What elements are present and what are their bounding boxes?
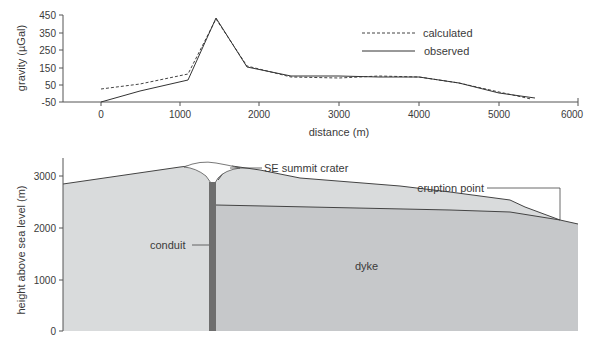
legend-label-calculated: calculated xyxy=(423,27,473,39)
x-tick-label: 0 xyxy=(98,109,104,120)
y-axis-label: gravity (µGal) xyxy=(15,25,27,91)
y-tick-label: 350 xyxy=(39,28,56,39)
y-ticks xyxy=(59,15,63,102)
x-tick-label: 5000 xyxy=(488,109,511,120)
height-tick-label: 2000 xyxy=(34,223,57,234)
label-dyke: dyke xyxy=(355,260,378,272)
legend: calculated observed xyxy=(362,27,473,57)
x-tick-label: 2000 xyxy=(248,109,271,120)
conduit xyxy=(209,182,216,331)
dyke-body xyxy=(216,205,578,331)
label-conduit: conduit xyxy=(150,239,185,251)
height-tick-labels: 3000 2000 1000 0 xyxy=(34,171,57,337)
cross-section: 3000 2000 1000 0 height above sea level … xyxy=(15,158,578,337)
y-tick-label: 150 xyxy=(39,63,56,74)
y-tick-label: 50 xyxy=(45,80,57,91)
label-eruption-point: eruption point xyxy=(417,182,484,194)
y-tick-labels: 450 350 250 150 50 -50 xyxy=(39,10,56,108)
x-axis-label: distance (m) xyxy=(309,126,370,138)
height-axis-label: height above sea level (m) xyxy=(15,185,27,314)
y-tick-label: 250 xyxy=(39,45,56,56)
height-ticks xyxy=(59,176,63,331)
y-tick-label: 450 xyxy=(39,10,56,21)
legend-label-observed: observed xyxy=(424,45,469,57)
y-tick-label: -50 xyxy=(42,97,57,108)
label-se-summit-crater: SE summit crater xyxy=(264,162,349,174)
x-tick-labels: 0 1000 2000 3000 4000 5000 6000 xyxy=(98,109,583,120)
x-tick-label: 4000 xyxy=(408,109,431,120)
height-tick-label: 3000 xyxy=(34,171,57,182)
gravity-chart: 450 350 250 150 50 -50 0 1000 2000 3000 … xyxy=(15,10,584,138)
x-tick-label: 3000 xyxy=(328,109,351,120)
height-tick-label: 0 xyxy=(50,326,56,337)
x-tick-label: 6000 xyxy=(561,109,584,120)
height-tick-label: 1000 xyxy=(34,275,57,286)
x-tick-label: 1000 xyxy=(169,109,192,120)
figure: 450 350 250 150 50 -50 0 1000 2000 3000 … xyxy=(0,0,590,346)
